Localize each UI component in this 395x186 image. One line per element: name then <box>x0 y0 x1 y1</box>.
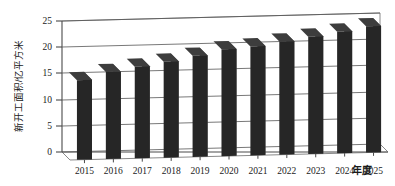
y-axis-title: 新开工面积/亿平方米 <box>13 40 24 133</box>
xtick-label-2020: 2020 <box>220 166 239 176</box>
xtick-label-2022: 2022 <box>277 166 296 176</box>
xtick-label-2018: 2018 <box>162 166 181 176</box>
chart-canvas: 0 5 10 15 20 25 新开工面积/亿平方米 2015201620172… <box>0 0 395 186</box>
bar-front-face <box>164 61 179 157</box>
bar-front-face <box>106 72 121 159</box>
bar-front-face <box>279 41 294 155</box>
bar-front-face <box>77 80 92 160</box>
xtick-label-2016: 2016 <box>104 166 123 176</box>
ytick-label-20: 20 <box>43 42 53 52</box>
ytick-label-15: 15 <box>43 68 53 78</box>
y-tick-labels: 0 5 10 15 20 25 <box>43 16 53 157</box>
ytick-label-5: 5 <box>47 121 52 131</box>
x-tick-labels: 2015201620172018201920202021202220232024… <box>75 166 383 176</box>
xtick-label-2021: 2021 <box>248 166 267 176</box>
bar-front-face <box>135 66 150 158</box>
bar-front-face <box>221 49 236 156</box>
xtick-label-2023: 2023 <box>306 166 325 176</box>
xtick-label-2017: 2017 <box>133 166 152 176</box>
xtick-label-2015: 2015 <box>75 166 94 176</box>
y-tick-marks <box>56 21 62 152</box>
ytick-label-25: 25 <box>43 16 53 26</box>
bar-chart-figure: 0 5 10 15 20 25 新开工面积/亿平方米 2015201620172… <box>0 0 395 186</box>
xtick-label-2019: 2019 <box>191 166 210 176</box>
bar-front-face <box>250 46 265 155</box>
bar-front-face <box>308 36 323 154</box>
ytick-label-0: 0 <box>47 147 52 157</box>
bar-front-face <box>193 55 208 157</box>
bar-front-face <box>337 31 352 153</box>
x-axis-title: 年度 <box>352 164 373 176</box>
bar-front-face <box>366 26 381 153</box>
ytick-label-10: 10 <box>43 95 53 105</box>
